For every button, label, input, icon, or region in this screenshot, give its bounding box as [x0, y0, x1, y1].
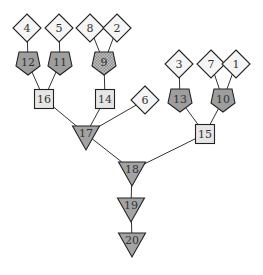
- node-label: 5: [56, 22, 63, 35]
- node-label: 10: [216, 93, 230, 106]
- tree-diagram: 4582371612119131016141517181920: [0, 0, 263, 275]
- node-18: 18: [119, 162, 146, 186]
- node-7: 7: [197, 50, 225, 78]
- node-9: 9: [92, 52, 116, 75]
- node-2: 2: [103, 14, 131, 42]
- node-8: 8: [76, 14, 104, 42]
- node-label: 6: [142, 94, 149, 107]
- node-19: 19: [118, 198, 145, 222]
- node-label: 1: [233, 58, 240, 71]
- node-17: 17: [73, 126, 100, 150]
- node-label: 12: [21, 56, 35, 69]
- node-label: 7: [208, 58, 215, 71]
- node-20: 20: [119, 233, 146, 257]
- node-1: 1: [222, 50, 250, 78]
- node-label: 18: [125, 163, 139, 176]
- node-15: 15: [196, 125, 215, 144]
- node-label: 4: [24, 22, 31, 35]
- node-label: 14: [98, 93, 112, 106]
- node-10: 10: [211, 89, 235, 112]
- node-14: 14: [96, 90, 115, 109]
- node-label: 2: [114, 22, 121, 35]
- node-label: 20: [125, 234, 139, 247]
- node-3: 3: [165, 50, 193, 78]
- node-4: 4: [13, 14, 41, 42]
- diagram-canvas: 4582371612119131016141517181920: [0, 0, 263, 275]
- node-label: 19: [124, 199, 138, 212]
- node-label: 8: [87, 22, 94, 35]
- node-label: 13: [173, 93, 187, 106]
- node-16: 16: [35, 90, 54, 109]
- node-label: 16: [37, 93, 51, 106]
- node-6: 6: [131, 86, 159, 114]
- node-label: 17: [79, 127, 93, 140]
- node-11: 11: [48, 52, 72, 75]
- node-label: 15: [198, 128, 212, 141]
- node-label: 9: [101, 56, 108, 69]
- node-5: 5: [45, 14, 73, 42]
- node-12: 12: [16, 52, 40, 75]
- node-13: 13: [168, 89, 192, 112]
- node-label: 3: [176, 58, 183, 71]
- node-label: 11: [53, 56, 67, 69]
- nodes-layer: 4582371612119131016141517181920: [13, 14, 250, 257]
